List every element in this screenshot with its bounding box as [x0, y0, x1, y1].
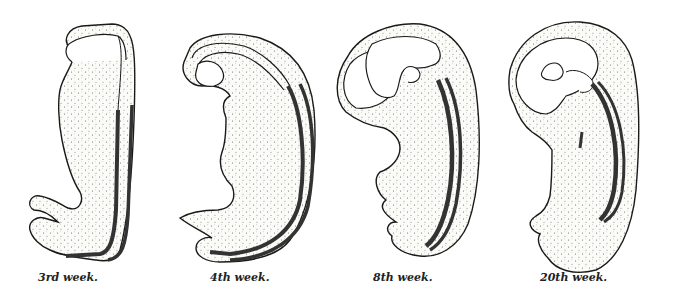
embryo-8th-week [337, 24, 479, 256]
embryo-20th-week [509, 22, 639, 272]
caption-3rd-week: 3rd week. [38, 271, 98, 284]
embryo-3rd-week [30, 24, 135, 261]
caption-8th-week: 8th week. [373, 271, 432, 284]
caption-4th-week: 4th week. [210, 271, 269, 284]
caption-20th-week: 20th week. [540, 271, 607, 284]
embryo-4th-week [180, 34, 315, 262]
embryo-illustration [0, 0, 674, 301]
